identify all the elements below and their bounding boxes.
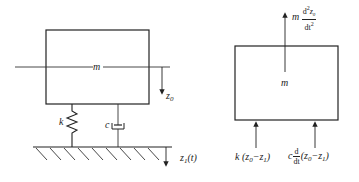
spring-icon (67, 104, 77, 147)
inertia-force-label: m d2z0dt2 (292, 4, 316, 32)
damper-label: c (105, 120, 109, 130)
damper-force-label: cddt(z0−z1) (288, 147, 329, 166)
spring-force-label: k (z0−z1) (235, 152, 270, 164)
ground-icon (33, 147, 172, 160)
z0-label: z0 (166, 91, 173, 103)
free-body-mass-label: m (281, 78, 288, 88)
mass-label: m (93, 62, 100, 72)
spring-label: k (59, 117, 63, 127)
z1-label: z1(t) (180, 153, 197, 165)
damper-icon (112, 104, 124, 147)
figure: m k c z0 z1(t) m m d2z0dt2 k (z0−z1) cdd… (0, 0, 359, 182)
